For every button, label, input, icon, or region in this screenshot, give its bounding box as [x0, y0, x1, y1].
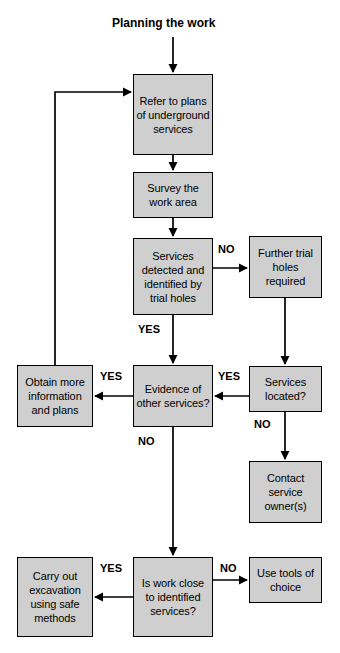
node-is-work-close[interactable]: Is work close to identified services? — [133, 557, 213, 637]
edge-label-no-is-work-close: NO — [220, 562, 237, 574]
node-survey-work-area[interactable]: Survey the work area — [133, 172, 213, 218]
node-label: Refer to plans of underground services — [134, 94, 212, 136]
node-contact-service-owners[interactable]: Contact service owner(s) — [249, 461, 322, 523]
edge-label-no-services-located: NO — [254, 418, 271, 430]
node-label: Carry out excavation using safe methods — [18, 569, 92, 625]
edge-label-yes-services-located: YES — [218, 370, 240, 382]
edge-label-no-evidence-down: NO — [138, 435, 155, 447]
node-obtain-more-info[interactable]: Obtain more information and plans — [17, 365, 93, 427]
node-label: Contact service owner(s) — [250, 471, 321, 513]
node-services-located[interactable]: Services located? — [249, 366, 322, 412]
node-label: Use tools of choice — [250, 566, 321, 594]
node-label: Is work close to identified services? — [134, 576, 212, 618]
connector-obtain-loop-to-refer — [55, 92, 131, 365]
node-refer-to-plans[interactable]: Refer to plans of underground services — [133, 74, 213, 155]
node-label: Obtain more information and plans — [18, 375, 92, 417]
node-further-trial-holes[interactable]: Further trial holes required — [249, 236, 322, 298]
flowchart-page: Planning the work Refer to plans of unde… — [0, 0, 340, 653]
node-label: Services detected and identified by tria… — [134, 249, 212, 305]
edge-label-yes-is-work-close: YES — [100, 562, 122, 574]
node-label: Evidence of other services? — [134, 382, 212, 410]
flowchart-title: Planning the work — [112, 16, 215, 30]
node-evidence-other-services[interactable]: Evidence of other services? — [133, 365, 213, 427]
edge-label-no-services-detected: NO — [218, 243, 235, 255]
node-services-detected[interactable]: Services detected and identified by tria… — [133, 238, 213, 315]
node-label: Survey the work area — [134, 181, 212, 209]
node-label: Further trial holes required — [250, 246, 321, 288]
edge-label-yes-evidence-left: YES — [100, 370, 122, 382]
node-use-tools-of-choice[interactable]: Use tools of choice — [249, 557, 322, 603]
node-label: Services located? — [250, 375, 321, 403]
edge-label-yes-services-detected: YES — [138, 323, 160, 335]
node-carry-out-excavation[interactable]: Carry out excavation using safe methods — [17, 557, 93, 637]
